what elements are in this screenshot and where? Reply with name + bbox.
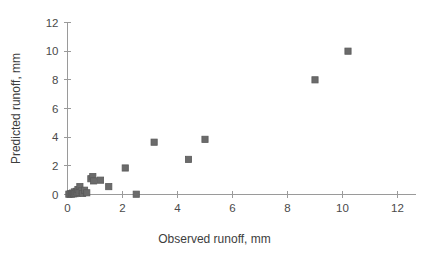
data-markers xyxy=(66,48,351,197)
data-point-marker xyxy=(91,178,97,184)
data-point-marker xyxy=(133,191,139,197)
y-tick-label: 12 xyxy=(46,17,59,29)
data-point-marker xyxy=(312,77,318,83)
x-tick-label: 4 xyxy=(174,202,181,214)
x-tick-label: 10 xyxy=(336,202,349,214)
scatter-chart: 024681012 024681012 Observed runoff, mm … xyxy=(0,0,423,261)
data-point-marker xyxy=(185,156,191,162)
data-point-marker xyxy=(84,190,90,196)
x-tick-label: 2 xyxy=(119,202,125,214)
data-point-marker xyxy=(97,177,103,183)
y-tick-label: 8 xyxy=(52,74,58,86)
y-tick-label: 10 xyxy=(46,45,59,57)
y-tick-label: 0 xyxy=(52,189,58,201)
y-tick-label: 2 xyxy=(52,160,58,172)
y-tick-label: 6 xyxy=(52,103,58,115)
x-tick-label: 12 xyxy=(391,202,404,214)
chart-svg: 024681012 024681012 Observed runoff, mm … xyxy=(0,0,423,261)
y-axis-title: Predicted runoff, mm xyxy=(9,53,23,164)
data-point-marker xyxy=(202,136,208,142)
x-axis-title: Observed runoff, mm xyxy=(158,232,271,246)
y-tick-label: 4 xyxy=(52,131,59,143)
x-tick-label: 8 xyxy=(284,202,290,214)
data-point-marker xyxy=(345,48,351,54)
data-point-marker xyxy=(122,165,128,171)
data-point-marker xyxy=(106,184,112,190)
data-point-marker xyxy=(151,139,157,145)
x-tick-label: 0 xyxy=(64,202,70,214)
x-tick-label: 6 xyxy=(229,202,235,214)
